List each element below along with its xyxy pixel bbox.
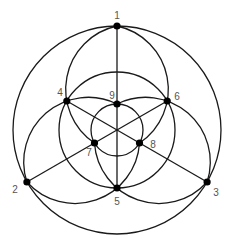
point-5-label: 5: [114, 196, 120, 207]
point-labels: 123456789: [12, 10, 219, 207]
point-1-label: 1: [114, 10, 120, 21]
point-7-dot: [91, 139, 98, 146]
point-4-dot: [63, 97, 70, 104]
point-8-dot: [136, 139, 143, 146]
point-6-label: 6: [174, 91, 180, 102]
point-2-dot: [23, 178, 30, 185]
point-4-label: 4: [57, 87, 63, 98]
point-3-dot: [204, 178, 211, 185]
nine-point-configuration-diagram: 123456789: [0, 0, 231, 250]
point-5-dot: [113, 184, 120, 191]
arc-2-5-8: [27, 143, 140, 203]
point-3-label: 3: [213, 187, 219, 198]
point-2-label: 2: [12, 184, 18, 195]
arc-3-5-7: [95, 143, 208, 203]
point-6-dot: [164, 97, 171, 104]
arc-3-6-9: [117, 97, 210, 182]
arc-2-4-9: [24, 97, 117, 182]
point-9-label: 9: [109, 90, 115, 101]
point-1-dot: [113, 22, 120, 29]
point-8-label: 8: [150, 139, 156, 150]
point-9-dot: [113, 100, 120, 107]
point-7-label: 7: [86, 147, 92, 158]
